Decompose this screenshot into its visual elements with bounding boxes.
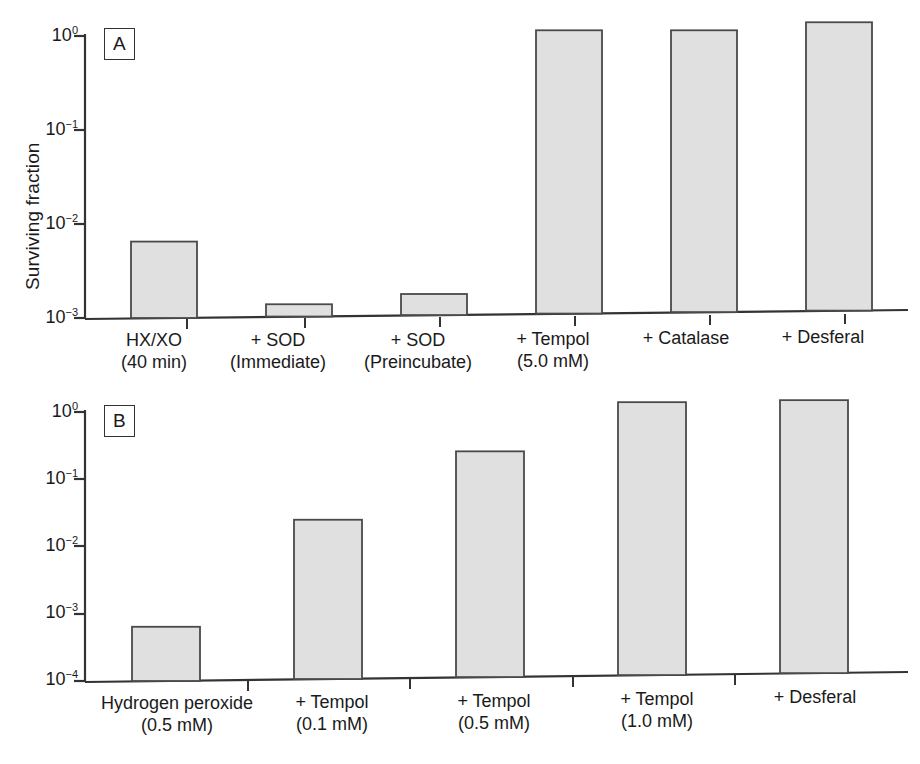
panel-a-bars [131,22,872,318]
cat-line-1: + Tempol [457,691,530,711]
panel-b-cat-2: + Tempol (0.5 mM) [406,691,582,735]
cat-line-1: + Tempol [516,329,589,349]
cat-line-2: (0.5 mM) [406,713,582,735]
cat-line-1: + Catalase [643,328,730,348]
bar [806,22,872,310]
bar [132,627,200,681]
cat-line-1: + SOD [391,330,446,350]
cat-line-1: Hydrogen peroxide [101,693,253,713]
bar [536,30,602,313]
bar [780,400,848,673]
panel-a-cat-5: + Desferal [735,327,911,349]
panel-b-cat-4: + Desferal [727,687,903,709]
bar [401,294,467,315]
chart-panel-a: Surviving fraction 100 10−1 10−2 10−3 A [0,0,920,392]
panel-b-bars [132,400,848,681]
cat-line-1: + Tempol [295,692,368,712]
bar [294,520,362,679]
cat-line-1: + Desferal [782,327,865,347]
cat-line-1: + SOD [251,330,306,350]
bar [618,402,686,675]
cat-line-2: (1.0 mM) [569,711,745,733]
cat-line-2: (5.0 mM) [465,351,641,373]
panel-a-axes [74,34,908,329]
cat-line-1: HX/XO [126,330,182,350]
cat-line-2: (0.1 mM) [244,714,420,736]
cat-line-1: + Tempol [620,689,693,709]
panel-b-cat-1: + Tempol (0.1 mM) [244,692,420,736]
chart-panel-b: Surviving fraction 100 10−1 10−2 10−3 10… [0,380,920,764]
cat-line-1: + Desferal [774,687,857,707]
bar [456,451,524,677]
bar [266,304,332,316]
panel-b-cat-3: + Tempol (1.0 mM) [569,689,745,733]
bar [671,30,737,312]
figure-root: Surviving fraction 100 10−1 10−2 10−3 A [0,0,920,764]
bar [131,242,197,318]
